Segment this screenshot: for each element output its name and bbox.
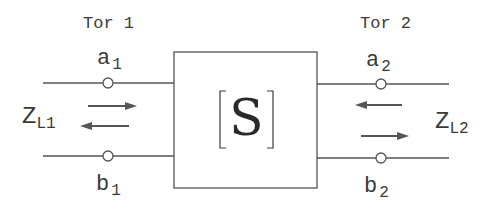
port-1-label: Tor 1 — [83, 14, 134, 33]
two-port-diagram: Tor 1 Tor 2 S a1 b1 a2 b2 ZL1 ZL2 — [0, 0, 495, 215]
load-impedance-1-label: ZL1 — [22, 103, 56, 133]
wave-a1-label: a1 — [97, 46, 122, 74]
arrow-left-icon — [80, 122, 92, 130]
port-1-bottom-terminal — [103, 151, 113, 161]
port-1-top-terminal — [103, 78, 113, 88]
port-2-top-terminal — [376, 79, 386, 89]
wave-b2-label: b2 — [364, 174, 389, 202]
arrow-right-icon — [397, 132, 409, 140]
arrow-right-icon — [125, 102, 137, 110]
port-2-bottom-terminal — [376, 153, 386, 163]
arrow-left-icon — [355, 101, 367, 109]
wave-b1-label: b1 — [96, 172, 121, 200]
wave-a2-label: a2 — [366, 48, 391, 76]
port-2-label: Tor 2 — [360, 14, 411, 33]
s-matrix-symbol: S — [229, 89, 263, 147]
load-impedance-2-label: ZL2 — [435, 108, 469, 138]
